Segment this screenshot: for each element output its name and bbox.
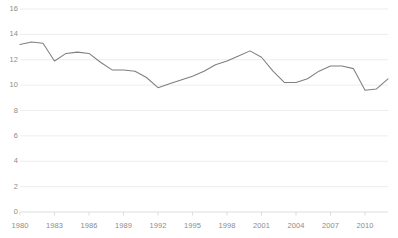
x-axis-tick-label: 2004 (281, 222, 311, 230)
x-axis-tick-label: 2007 (316, 222, 346, 230)
line-chart: 1614121086420 19801983198619891992199519… (0, 0, 398, 238)
x-axis-tick-label: 1986 (74, 222, 104, 230)
x-axis-tick-label: 1998 (212, 222, 242, 230)
x-axis-tick-label: 1995 (178, 222, 208, 230)
x-axis-tick-label: 1992 (143, 222, 173, 230)
x-axis-tick-labels: 1980198319861989199219951998200120042007… (0, 0, 398, 238)
x-axis-tick-label: 1983 (40, 222, 70, 230)
x-axis-tick-label: 1989 (109, 222, 139, 230)
x-axis-tick-label: 2001 (247, 222, 277, 230)
x-axis-tick-label: 1980 (5, 222, 35, 230)
x-axis-tick-label: 2010 (350, 222, 380, 230)
